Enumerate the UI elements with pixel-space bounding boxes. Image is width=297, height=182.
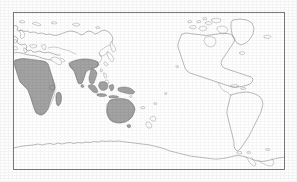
world-distribution-map [0,0,297,182]
